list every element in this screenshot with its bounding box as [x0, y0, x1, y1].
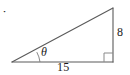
figure-corner-mark: · [3, 7, 6, 16]
side-label-base: 15 [57, 61, 69, 73]
hypotenuse-line [12, 8, 113, 62]
side-label-height: 8 [117, 26, 123, 38]
angle-arc-icon [37, 52, 40, 62]
angle-label-theta: θ [41, 46, 47, 58]
geometry-figure: · θ 8 15 [0, 0, 130, 75]
right-angle-marker-icon [104, 53, 113, 62]
